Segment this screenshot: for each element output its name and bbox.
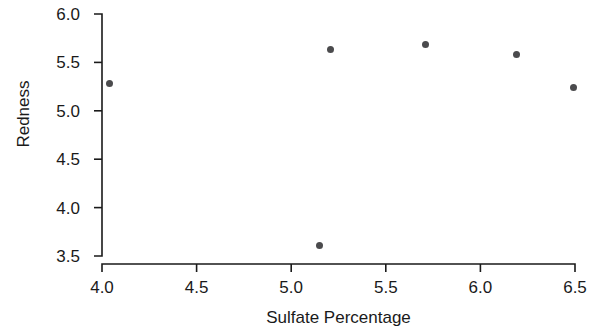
data-point [327, 46, 334, 53]
plot-area [0, 0, 595, 336]
data-point [570, 84, 577, 91]
data-point [513, 51, 520, 58]
scatter-chart: 6.0 5.5 5.0 4.5 4.0 3.5 4.0 4.5 5.0 5.5 … [0, 0, 595, 336]
data-point [316, 242, 323, 249]
data-point [106, 80, 113, 87]
data-point [422, 41, 429, 48]
